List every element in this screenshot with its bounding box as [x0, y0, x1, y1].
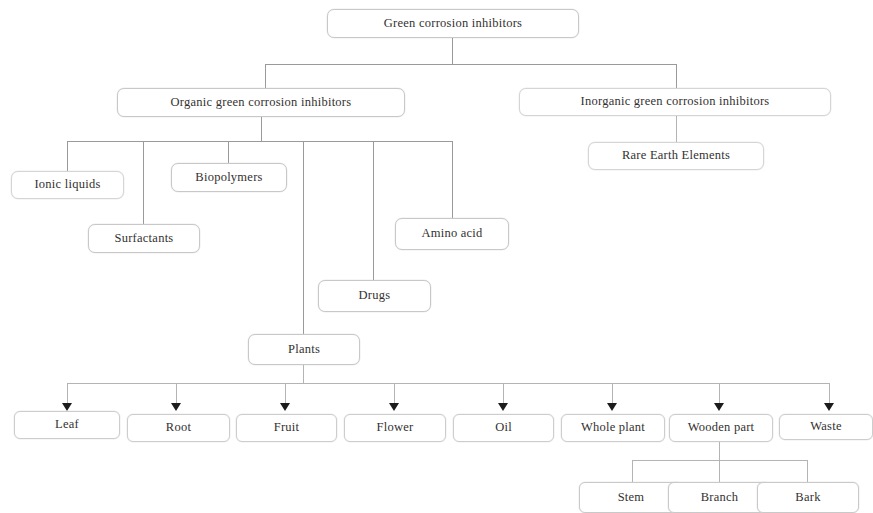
node-oil[interactable]: Oil	[453, 414, 554, 442]
tree-diagram-canvas: Green corrosion inhibitors Organic green…	[0, 0, 873, 513]
node-fruit[interactable]: Fruit	[236, 414, 337, 442]
node-label: Flower	[377, 421, 414, 435]
connector-drop-whole-plant	[612, 383, 613, 405]
node-label: Organic green corrosion inhibitors	[171, 96, 352, 110]
connector-wooden-part-stem	[719, 442, 720, 460]
arrow-wooden-part-icon	[714, 403, 724, 411]
connector-root-stem	[452, 38, 453, 64]
node-label: Biopolymers	[195, 171, 262, 185]
node-amino-acid[interactable]: Amino acid	[395, 218, 509, 250]
node-root[interactable]: Root	[127, 414, 230, 442]
arrow-whole-plant-icon	[607, 403, 617, 411]
connector-plants-stem	[303, 365, 304, 383]
connector-drop-waste	[829, 383, 830, 405]
node-flower[interactable]: Flower	[344, 414, 446, 442]
node-label: Waste	[810, 420, 841, 434]
connector-drop-surfactants	[143, 141, 144, 224]
connector-level1-bar	[265, 64, 676, 65]
node-leaf[interactable]: Leaf	[14, 411, 120, 439]
connector-drop-plants	[303, 141, 304, 334]
node-green-corrosion-inhibitors[interactable]: Green corrosion inhibitors	[327, 9, 579, 38]
node-label: Whole plant	[581, 421, 645, 435]
node-label: Ionic liquids	[34, 178, 100, 192]
node-label: Drugs	[359, 289, 391, 303]
connector-drop-wooden-part	[719, 383, 720, 405]
node-label: Surfactants	[115, 232, 174, 246]
connector-organic-stem	[261, 117, 262, 141]
node-label: Stem	[618, 491, 645, 505]
arrow-oil-icon	[498, 403, 508, 411]
node-organic-green-corrosion-inhibitors[interactable]: Organic green corrosion inhibitors	[117, 88, 405, 117]
arrow-flower-icon	[389, 403, 399, 411]
node-label: Rare Earth Elements	[622, 149, 730, 163]
node-inorganic-green-corrosion-inhibitors[interactable]: Inorganic green corrosion inhibitors	[519, 88, 831, 116]
arrow-root-icon	[171, 403, 181, 411]
arrow-waste-icon	[824, 403, 834, 411]
node-label: Fruit	[274, 421, 300, 435]
node-label: Green corrosion inhibitors	[384, 17, 522, 31]
node-label: Bark	[795, 491, 820, 505]
node-label: Plants	[288, 343, 320, 357]
arrow-leaf-icon	[62, 403, 72, 411]
connector-organic-bar	[67, 141, 453, 142]
node-label: Oil	[495, 421, 512, 435]
node-bark[interactable]: Bark	[757, 482, 859, 513]
node-drugs[interactable]: Drugs	[318, 280, 431, 312]
connector-inorganic-to-rare-earth	[676, 116, 677, 142]
connector-drop-ionic-liquids	[67, 141, 68, 171]
node-label: Root	[166, 421, 191, 435]
arrow-fruit-icon	[280, 403, 290, 411]
connector-drop-branch	[719, 460, 720, 482]
node-label: Leaf	[55, 418, 79, 432]
node-label: Branch	[701, 491, 739, 505]
node-ionic-liquids[interactable]: Ionic liquids	[11, 171, 124, 199]
connector-drop-biopolymers	[228, 141, 229, 163]
connector-level1-left-drop	[265, 64, 266, 88]
connector-drop-root	[176, 383, 177, 405]
connector-drop-flower	[394, 383, 395, 405]
node-wooden-part[interactable]: Wooden part	[669, 414, 773, 442]
node-rare-earth-elements[interactable]: Rare Earth Elements	[588, 142, 764, 170]
node-whole-plant[interactable]: Whole plant	[561, 414, 665, 442]
connector-drop-drugs	[373, 141, 374, 280]
connector-drop-bark	[807, 460, 808, 482]
node-surfactants[interactable]: Surfactants	[88, 224, 200, 253]
connector-drop-fruit	[285, 383, 286, 405]
connector-level1-right-drop	[676, 64, 677, 88]
node-plants[interactable]: Plants	[248, 334, 360, 365]
connector-plant-parts-bar	[67, 383, 830, 384]
node-label: Wooden part	[688, 421, 755, 435]
connector-drop-amino-acid	[452, 141, 453, 218]
connector-drop-stem	[632, 460, 633, 482]
connector-drop-leaf	[67, 383, 68, 405]
node-label: Inorganic green corrosion inhibitors	[581, 95, 770, 109]
node-label: Amino acid	[421, 227, 482, 241]
node-branch[interactable]: Branch	[668, 482, 771, 513]
connector-drop-oil	[503, 383, 504, 405]
node-biopolymers[interactable]: Biopolymers	[171, 163, 287, 192]
node-waste[interactable]: Waste	[779, 414, 873, 440]
